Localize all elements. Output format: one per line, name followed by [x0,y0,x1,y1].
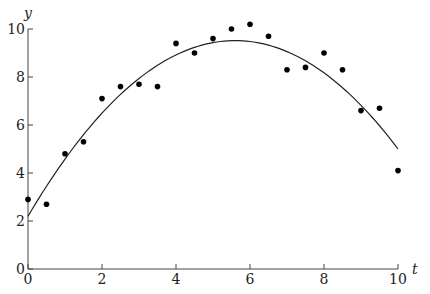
data-point [340,67,346,73]
data-points [25,21,401,207]
data-point [173,41,179,47]
y-tick-label: 0 [16,261,25,277]
x-tick-label: 6 [246,271,255,287]
axes [28,29,398,269]
data-point [118,84,124,90]
y-ticks: 0246810 [7,21,33,277]
y-axis-label: y [23,5,33,21]
y-tick-label: 6 [16,117,25,133]
x-tick-label: 8 [320,271,329,287]
data-point [284,67,290,73]
data-point [25,197,31,203]
data-point [395,168,401,174]
x-ticks: 0246810 [24,264,407,287]
data-point [210,36,216,42]
data-point [358,108,364,114]
data-point [303,65,309,71]
data-point [62,151,68,157]
data-point [44,201,50,207]
x-tick-label: 4 [172,271,181,287]
data-point [377,105,383,111]
data-point [136,81,142,87]
y-tick-label: 10 [7,21,25,37]
y-tick-label: 2 [16,213,25,229]
data-point [321,50,327,56]
fitted-curve [28,41,398,217]
data-point [192,50,198,56]
data-point [247,21,253,27]
x-axis-label: t [412,261,418,277]
data-point [81,139,87,145]
x-tick-label: 2 [98,271,107,287]
data-point [99,96,105,102]
x-tick-label: 10 [389,271,407,287]
scatter-chart: 0246810 0246810 t y [0,0,430,294]
data-point [155,84,161,90]
data-point [266,33,272,39]
data-point [229,26,235,32]
y-tick-label: 4 [16,165,25,181]
y-tick-label: 8 [16,69,25,85]
